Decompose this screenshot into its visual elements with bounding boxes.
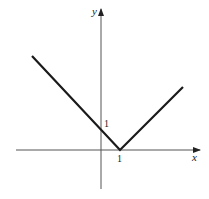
y-axis-label: y bbox=[91, 5, 97, 17]
y-tick-label: 1 bbox=[104, 118, 109, 129]
function-graph: y x 1 1 bbox=[0, 0, 209, 199]
absolute-value-curve bbox=[32, 56, 183, 150]
x-axis-label: x bbox=[191, 151, 197, 163]
x-tick-label: 1 bbox=[117, 153, 122, 164]
